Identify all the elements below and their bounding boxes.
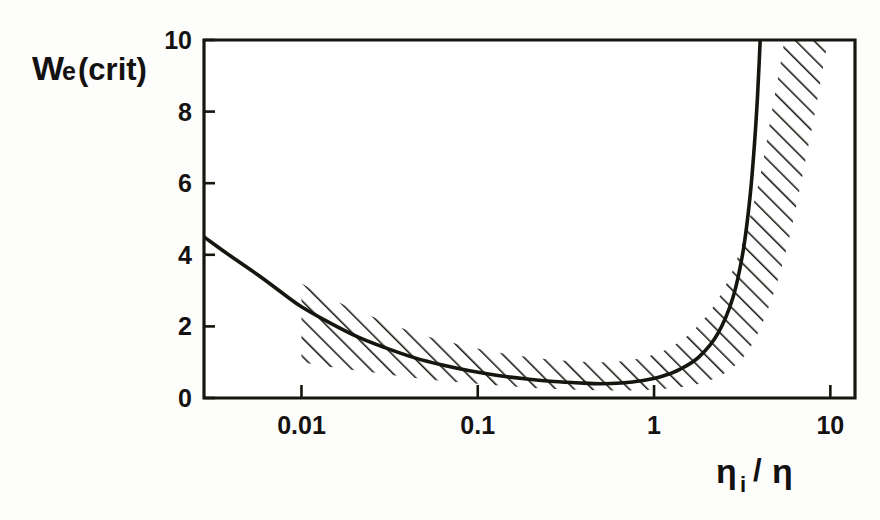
x-axis-title: η i / η [716,452,793,497]
x-axis-title-numerator-subscript: i [740,472,746,497]
y-tick-label-6: 6 [178,169,192,197]
x-axis-tick-labels: 0.010.1110 [277,411,844,439]
chart-canvas: 0246810 0.010.1110 W e (crit) η i / η [0,0,880,520]
x-tick-label-0.01: 0.01 [277,411,326,439]
y-axis-tick-labels: 0246810 [164,26,192,412]
y-axis-title-subscript: e [62,57,76,85]
y-tick-label-0: 0 [178,384,192,412]
y-tick-label-8: 8 [178,98,192,126]
x-axis-title-numerator: η [716,452,737,490]
y-axis-title-qualifier: (crit) [78,52,147,87]
figure-container: 0246810 0.010.1110 W e (crit) η i / η [0,0,880,520]
x-axis-title-separator: / [753,453,762,488]
y-tick-label-10: 10 [164,26,192,54]
y-tick-label-2: 2 [178,312,192,340]
x-tick-label-10: 10 [816,411,844,439]
x-tick-label-1: 1 [647,411,661,439]
y-axis-title-main: W [32,49,65,87]
y-tick-label-4: 4 [178,241,192,269]
x-axis-title-denominator: η [772,452,793,490]
y-axis-title: W e (crit) [32,49,147,87]
x-tick-label-0.1: 0.1 [460,411,495,439]
